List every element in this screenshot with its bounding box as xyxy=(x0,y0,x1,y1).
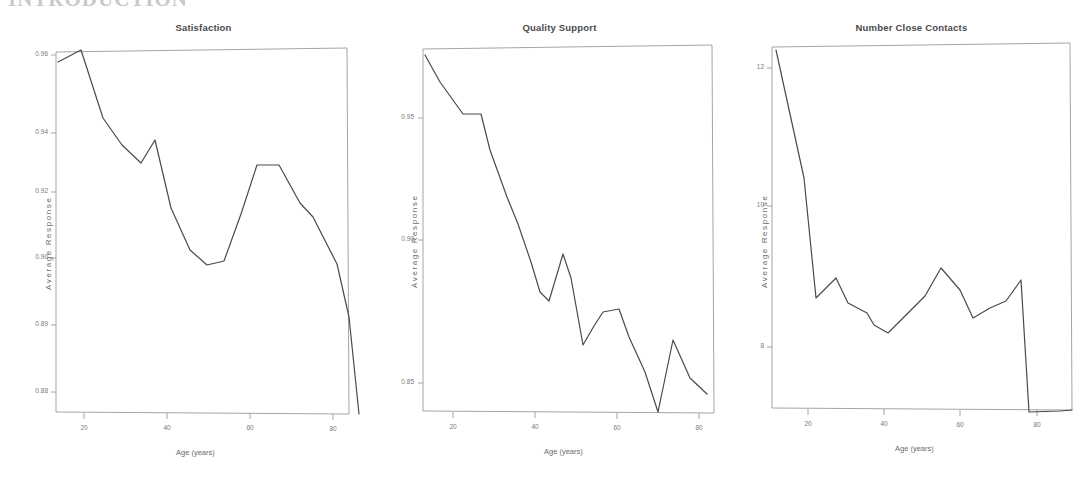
x-tick-label: 20 xyxy=(72,424,96,431)
x-tick-label: 40 xyxy=(523,423,547,430)
number-close-contacts-plot xyxy=(728,0,1090,486)
x-tick-label: 80 xyxy=(1025,421,1049,428)
y-tick-label: 0.89 xyxy=(24,320,48,327)
x-tick-marks xyxy=(808,409,1037,416)
x-tick-label: 20 xyxy=(441,423,465,430)
y-axis-label: Average Response xyxy=(44,197,53,291)
plot-frame xyxy=(423,45,714,413)
data-line xyxy=(776,50,1072,412)
panel-satisfaction: Satisfaction Average Res xyxy=(0,0,363,486)
y-tick-label: 0.88 xyxy=(24,387,48,394)
x-tick-label: 60 xyxy=(238,424,262,431)
quality-support-plot xyxy=(368,0,731,486)
y-axis-label: Average Response xyxy=(760,195,769,289)
y-tick-label: 0.92 xyxy=(24,187,48,194)
x-tick-label: 40 xyxy=(155,424,179,431)
data-line xyxy=(425,55,707,412)
x-tick-label: 60 xyxy=(605,424,629,431)
plot-frame xyxy=(772,43,1072,410)
x-axis-label: Age (years) xyxy=(544,447,583,456)
data-line xyxy=(58,50,359,414)
y-tick-label: 0.95 xyxy=(390,113,414,120)
x-axis-label: Age (years) xyxy=(895,444,934,453)
panel-quality-support: Quality Support Average Response Age (ye… xyxy=(368,0,731,486)
x-tick-label: 80 xyxy=(321,425,345,432)
y-tick-label: 0.90 xyxy=(24,253,48,260)
x-tick-label: 20 xyxy=(796,420,820,427)
satisfaction-plot xyxy=(0,0,363,486)
y-tick-label: 0.90 xyxy=(390,235,414,242)
y-tick-label: 8 xyxy=(742,342,764,349)
three-panel-figure: Satisfaction Average Res xyxy=(0,0,1090,486)
x-axis-label: Age (years) xyxy=(176,448,215,457)
plot-frame xyxy=(56,48,349,414)
x-tick-label: 40 xyxy=(872,420,896,427)
x-tick-label: 80 xyxy=(687,424,711,431)
y-tick-label: 0.96 xyxy=(24,50,48,57)
x-tick-label: 60 xyxy=(948,421,972,428)
y-tick-label: 12 xyxy=(742,63,764,70)
panel-number-close-contacts: Number Close Contacts Average Response A… xyxy=(728,0,1090,486)
y-tick-label: 0.94 xyxy=(24,128,48,135)
y-tick-label: 10 xyxy=(742,201,764,208)
y-tick-label: 0.85 xyxy=(390,378,414,385)
